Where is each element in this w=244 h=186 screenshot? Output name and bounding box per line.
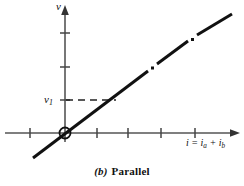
- v1-tick-label: v1: [44, 94, 53, 107]
- i-axis-subscript-b: b: [221, 142, 225, 150]
- i-axis-label: i = ia + ib: [186, 138, 225, 150]
- i-axis-label-main: i = i: [186, 137, 203, 148]
- figure-parallel-vi-characteristic: v v1 i = ia + ib (b)Parallel: [0, 0, 244, 186]
- caption-letter: (b): [94, 165, 107, 177]
- v-axis-label: v: [56, 1, 61, 12]
- characteristic-line-dot-1: [151, 67, 154, 70]
- caption-text: Parallel: [112, 165, 150, 177]
- characteristic-line-segment-lower: [33, 71, 148, 158]
- v1-subscript: 1: [49, 98, 53, 107]
- x-axis-arrowhead: [230, 129, 240, 137]
- i-axis-label-plus: + i: [207, 137, 222, 148]
- characteristic-line-segment-upper: [197, 14, 232, 35]
- plot-canvas: [0, 0, 244, 186]
- characteristic-line-dot-2: [191, 38, 194, 41]
- characteristic-line-segment-middle: [157, 41, 188, 64]
- y-axis-arrowhead: [61, 5, 69, 15]
- figure-caption: (b)Parallel: [0, 165, 244, 177]
